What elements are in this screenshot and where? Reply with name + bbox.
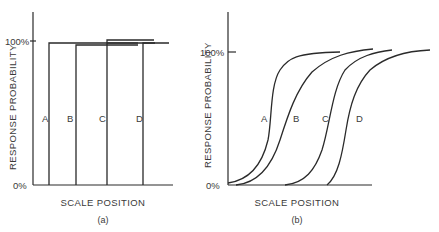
panel-b-tick-label-0: 0% xyxy=(206,180,220,191)
panel-b-caption: (b) xyxy=(292,215,303,225)
panel-b-label-B: B xyxy=(293,113,299,124)
panel-b-label-C: C xyxy=(322,113,329,124)
panel-a-y-label: RESPONSE PROBABILITY xyxy=(7,44,18,170)
panel-a: 100% 0% RESPONSE PROBABILITY A B C D SCA… xyxy=(5,12,173,225)
panel-a-label-D: D xyxy=(136,113,143,124)
panel-b-label-D: D xyxy=(356,113,363,124)
figure: 100% 0% RESPONSE PROBABILITY A B C D SCA… xyxy=(0,0,439,232)
panel-a-label-A: A xyxy=(42,113,49,124)
panel-a-x-label: SCALE POSITION xyxy=(61,197,146,208)
panel-a-label-B: B xyxy=(67,113,73,124)
panel-a-label-C: C xyxy=(99,113,106,124)
chart-svg: 100% 0% RESPONSE PROBABILITY A B C D SCA… xyxy=(0,0,439,232)
panel-b-y-label: RESPONSE PROBABILITY xyxy=(202,42,213,168)
panel-b: 100% 0% RESPONSE PROBABILITY A B C D SCA… xyxy=(200,12,430,225)
panel-a-curve-D xyxy=(143,43,169,185)
panel-b-curve-D xyxy=(327,50,430,185)
panel-b-x-label: SCALE POSITION xyxy=(255,197,340,208)
panel-a-tick-label-0: 0% xyxy=(13,180,27,191)
panel-a-caption: (a) xyxy=(98,215,109,225)
panel-b-label-A: A xyxy=(261,113,268,124)
panel-a-curve-C xyxy=(107,40,154,185)
panel-b-curve-B xyxy=(236,49,373,185)
